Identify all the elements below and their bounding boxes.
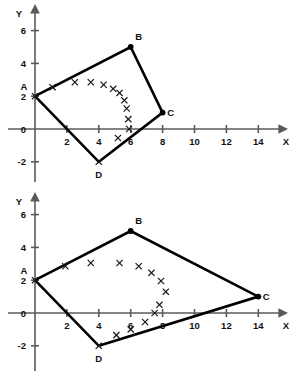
data-point-x-marker <box>116 260 122 266</box>
x-axis-title: X <box>283 320 290 331</box>
data-point-x-marker <box>88 79 94 85</box>
x-tick-label: 12 <box>221 320 232 331</box>
vertex-label-d: D <box>95 169 102 180</box>
vertex-dot-b <box>128 44 134 50</box>
data-point-x-marker <box>100 82 106 88</box>
vertex-label-a: A <box>21 265 28 276</box>
x-tick-label: 2 <box>64 136 69 147</box>
data-point-x-marker <box>142 319 148 325</box>
data-point-x-marker <box>110 86 116 92</box>
data-point-x-marker <box>125 116 131 122</box>
data-point-x-marker <box>124 105 130 111</box>
x-tick-label: 8 <box>160 136 165 147</box>
vertex-dot-c <box>255 294 261 300</box>
y-tick-label: 4 <box>21 58 27 69</box>
y-tick-label: -2 <box>18 340 26 351</box>
data-point-x-marker <box>121 97 127 103</box>
y-tick-label: 4 <box>21 242 27 253</box>
vertex-label-b: B <box>135 31 142 42</box>
plot-canvas: 2468101214-20246XYABCD <box>0 188 302 377</box>
x-tick-label: 14 <box>253 320 264 331</box>
x-tick-label: 12 <box>221 136 232 147</box>
x-tick-label: 4 <box>96 136 102 147</box>
data-point-x-marker <box>156 302 162 308</box>
data-point-x-marker <box>88 260 94 266</box>
data-point-x-marker <box>116 90 122 96</box>
y-tick-label: 2 <box>21 91 26 102</box>
chart-panel-bottom: 2468101214-20246XYABCD <box>0 188 302 377</box>
y-tick-label: 0 <box>21 124 26 135</box>
data-point-x-marker <box>158 278 164 284</box>
vertex-dot-c <box>160 110 166 116</box>
data-point-x-marker <box>136 263 142 269</box>
chart-panel-top: 2468101214-20246XYABCD <box>0 0 302 188</box>
vertex-label-c: C <box>167 107 174 118</box>
plot-canvas: 2468101214-20246XYABCD <box>0 0 302 188</box>
vertex-label-b: B <box>135 215 142 226</box>
data-point-x-marker <box>163 289 169 295</box>
data-point-x-marker <box>96 159 102 165</box>
two-chart-figure: 2468101214-20246XYABCD 2468101214-20246X… <box>0 0 302 377</box>
x-axis-title: X <box>283 136 290 147</box>
data-point-x-marker <box>115 135 121 141</box>
x-tick-label: 14 <box>253 136 264 147</box>
y-tick-label: 6 <box>21 25 26 36</box>
data-point-x-marker <box>113 332 119 338</box>
x-tick-label: 10 <box>189 320 200 331</box>
vertex-label-d: D <box>95 353 102 364</box>
data-point-x-marker <box>148 270 154 276</box>
y-tick-label: 6 <box>21 209 26 220</box>
y-tick-label: -2 <box>18 156 26 167</box>
y-tick-label: 2 <box>21 275 26 286</box>
y-axis-title: Y <box>16 196 23 207</box>
x-tick-label: 10 <box>189 136 200 147</box>
y-tick-label: 0 <box>21 308 26 319</box>
y-axis-title: Y <box>16 8 23 19</box>
vertex-dot-b <box>128 228 134 234</box>
vertex-label-a: A <box>21 81 28 92</box>
x-tick-label: 4 <box>96 320 102 331</box>
x-tick-label: 2 <box>64 320 69 331</box>
vertex-label-c: C <box>263 291 270 302</box>
data-point-x-marker <box>72 79 78 85</box>
